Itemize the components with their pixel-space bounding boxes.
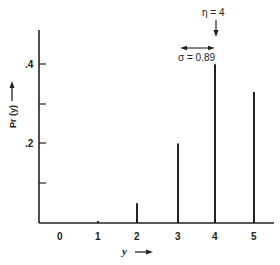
xtick-label-3: 3: [175, 231, 181, 242]
ytick-label-0.2: .2: [25, 138, 34, 149]
xtick-label-1: 1: [95, 231, 101, 242]
down-arrow-icon: [214, 20, 219, 37]
stems: [98, 64, 254, 223]
sigma-annotation: σ = 0.89: [178, 52, 215, 63]
x-axis-label: y: [120, 245, 127, 257]
double-arrow-icon: [180, 46, 215, 50]
xtick-label-5: 5: [251, 231, 257, 242]
y-axis-label: Pr (y): [8, 105, 18, 128]
xtick-label-0: 0: [57, 231, 63, 242]
y-axis-arrow-icon: [10, 81, 15, 101]
xtick-label-2: 2: [134, 231, 140, 242]
y-ticks: [39, 64, 46, 183]
x-tick-labels: 0 1 2 3 4 5: [57, 231, 257, 242]
eta-annotation: η = 4: [202, 7, 225, 18]
xtick-label-4: 4: [212, 231, 218, 242]
ytick-label-0.4: .4: [25, 59, 34, 70]
x-axis-arrow-icon: [135, 250, 153, 255]
probability-stem-chart: .2 .4 0 1 2 3 4 5 Pr (y) y η = 4 σ = 0.8…: [0, 0, 280, 265]
